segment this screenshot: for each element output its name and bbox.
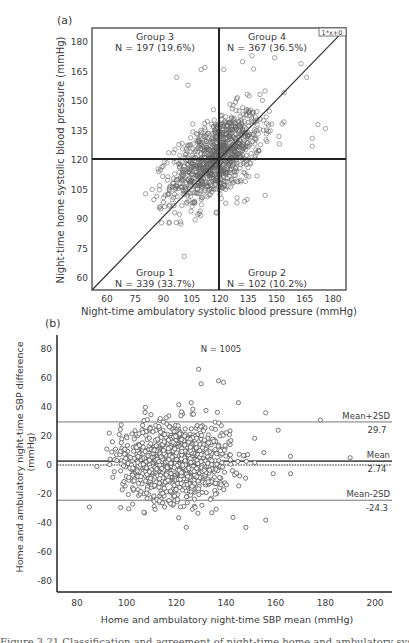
data-point (162, 440, 166, 444)
data-point (178, 153, 182, 157)
data-point (183, 459, 187, 463)
y-tick-label: -80 (37, 576, 52, 586)
data-point (141, 462, 145, 466)
x-tick-label: 60 (101, 294, 113, 304)
data-point (229, 439, 233, 443)
data-point (174, 451, 178, 455)
data-point (208, 468, 212, 472)
data-point (175, 457, 179, 461)
data-point (264, 411, 268, 415)
quadrant-group-name: Group 3 (136, 31, 174, 42)
data-point (211, 107, 215, 111)
data-point (272, 56, 276, 60)
quadrant-count: N = 367 (36.5%) (227, 42, 307, 53)
data-point (166, 175, 170, 179)
data-point (348, 456, 352, 460)
data-point (119, 441, 123, 445)
y-tick-label: -40 (37, 518, 52, 528)
panel-b-y-axis-label-line1: Home and ambulatory night-time SBP diffe… (14, 341, 25, 572)
data-point (270, 122, 274, 126)
data-point (231, 515, 235, 519)
data-point (174, 220, 178, 224)
data-point (237, 484, 241, 488)
data-point (161, 448, 165, 452)
data-point (199, 453, 203, 457)
y-tick-label: 80 (41, 344, 53, 354)
data-point (180, 410, 184, 414)
data-point (209, 426, 213, 430)
data-point (217, 421, 221, 425)
data-point (318, 418, 322, 422)
data-point (187, 440, 191, 444)
data-point (202, 468, 206, 472)
data-point (323, 126, 327, 130)
data-point (246, 453, 250, 457)
data-point (249, 151, 253, 155)
y-tick-label: 105 (71, 185, 88, 195)
data-point (179, 481, 183, 485)
data-point (263, 89, 267, 93)
data-point (304, 75, 308, 79)
data-point (193, 505, 197, 509)
data-point (145, 418, 149, 422)
data-point (110, 440, 114, 444)
data-point (145, 491, 149, 495)
data-point (253, 436, 257, 440)
data-point (253, 461, 257, 465)
y-tick-label: 60 (41, 373, 53, 383)
data-point (117, 432, 121, 436)
data-point (157, 459, 161, 463)
data-point (299, 61, 303, 65)
y-tick-label: 90 (77, 214, 89, 224)
data-point (191, 122, 195, 126)
data-point (158, 183, 162, 187)
data-point (277, 134, 281, 138)
y-tick-label: 120 (71, 155, 88, 165)
y-tick-label: -20 (37, 489, 52, 499)
y-tick-label: 180 (71, 37, 88, 47)
data-point (192, 497, 196, 501)
data-point (189, 209, 193, 213)
data-point (235, 201, 239, 205)
data-point (235, 96, 239, 100)
data-point (157, 424, 161, 428)
data-point (171, 440, 175, 444)
data-point (260, 98, 264, 102)
x-tick-label: 180 (317, 598, 334, 608)
data-point (131, 487, 135, 491)
data-point (183, 434, 187, 438)
data-point (144, 479, 148, 483)
data-point (122, 464, 126, 468)
data-point (244, 525, 248, 529)
data-point (276, 428, 280, 432)
data-point (237, 452, 241, 456)
data-point (198, 209, 202, 213)
data-point (218, 449, 222, 453)
data-point (203, 65, 207, 69)
data-point (247, 174, 251, 178)
data-point (122, 479, 126, 483)
data-point (147, 470, 151, 474)
data-point (171, 177, 175, 181)
data-point (310, 144, 314, 148)
data-point (208, 497, 212, 501)
data-point (197, 367, 201, 371)
data-point (189, 427, 193, 431)
identity-line (92, 35, 340, 290)
data-point (216, 379, 220, 383)
panel-a-y-ticks: 607590105120135150165180 (71, 37, 88, 283)
y-tick-label: 20 (41, 431, 53, 441)
data-point (118, 427, 122, 431)
data-point (195, 436, 199, 440)
panel-b-x-axis-label: Home and ambulatory night-time SBP mean … (101, 614, 353, 625)
data-point (108, 457, 112, 461)
data-point (133, 429, 137, 433)
quadrant-group-name: Group 1 (136, 267, 174, 278)
data-point (288, 454, 292, 458)
data-point (191, 412, 195, 416)
data-point (224, 483, 228, 487)
data-point (184, 525, 188, 529)
data-point (222, 488, 226, 492)
x-tick-label: 165 (296, 294, 313, 304)
x-tick-label: 120 (211, 294, 228, 304)
